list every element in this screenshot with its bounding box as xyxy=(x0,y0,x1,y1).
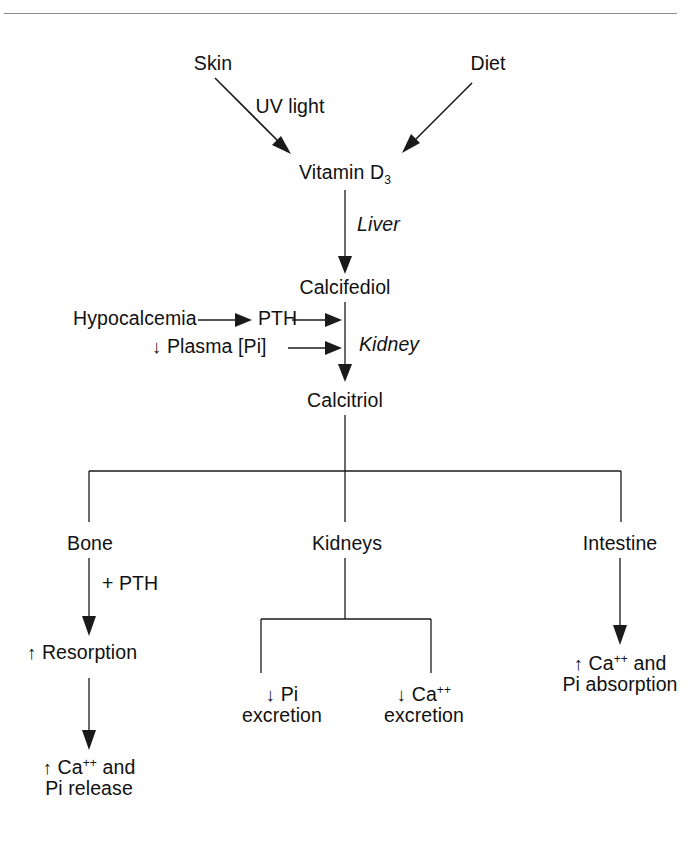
intestine-output-and: and xyxy=(628,652,666,674)
node-plasma-pi-text: Plasma [Pi] xyxy=(167,335,267,357)
down-arrow-icon: ↓ xyxy=(266,684,275,705)
arrow-bone-to-resorption xyxy=(82,558,96,636)
node-calcifediol: Calcifediol xyxy=(299,277,390,298)
node-kidneys: Kidneys xyxy=(312,533,382,554)
top-horizontal-rule xyxy=(4,13,677,14)
bone-output-charge: ++ xyxy=(83,756,97,770)
node-pth: PTH xyxy=(258,308,297,329)
node-bone-output: ↑ Ca++ and Pi release xyxy=(43,757,136,799)
ca-excretion-charge: ++ xyxy=(437,683,451,697)
node-vitamin-d3-subscript: 3 xyxy=(384,173,391,187)
arrow-resorption-to-release xyxy=(82,678,96,750)
node-vitamin-d3: Vitamin D3 xyxy=(299,162,391,183)
arrow-pth-to-kidney xyxy=(292,313,342,327)
node-hypocalcemia: Hypocalcemia xyxy=(73,308,197,329)
down-arrow-icon: ↓ xyxy=(152,336,161,357)
node-pi-excretion-line2: excretion xyxy=(242,705,322,726)
pi-excretion-text: Pi xyxy=(281,683,299,705)
node-ca-excretion-line2: excretion xyxy=(384,705,464,726)
bone-output-and: and xyxy=(97,756,135,778)
node-intestine-output-line1: ↑ Ca++ and xyxy=(562,653,677,674)
node-bone: Bone xyxy=(67,533,113,554)
down-arrow-icon: ↓ xyxy=(397,684,406,705)
up-arrow-icon: ↑ xyxy=(27,642,36,663)
node-skin: Skin xyxy=(194,53,232,74)
arrow-vitamind3-to-calcifediol xyxy=(338,190,352,274)
kidneys-distribution-bus xyxy=(261,558,431,673)
arrow-plasma-pi-to-kidney xyxy=(288,341,342,355)
node-ca-excretion: ↓ Ca++ excretion xyxy=(384,684,464,726)
node-resorption-text: Resorption xyxy=(42,641,137,663)
up-arrow-icon: ↑ xyxy=(574,653,583,674)
ca-excretion-ca: Ca xyxy=(412,683,437,705)
label-plus-pth: + PTH xyxy=(102,573,158,594)
intestine-output-charge: ++ xyxy=(614,652,628,666)
calcitriol-distribution-bus xyxy=(89,415,621,522)
arrow-diet-to-vitamind3 xyxy=(402,83,472,153)
label-liver: Liver xyxy=(357,214,400,235)
label-kidney: Kidney xyxy=(359,334,419,355)
node-intestine: Intestine xyxy=(583,533,658,554)
arrow-hypocalcemia-to-pth xyxy=(198,313,252,327)
node-pi-excretion: ↓ Pi excretion xyxy=(242,684,322,726)
node-resorption: ↑ Resorption xyxy=(27,642,137,663)
node-diet: Diet xyxy=(470,53,505,74)
arrow-calcifediol-to-calcitriol xyxy=(338,302,352,382)
node-vitamin-d3-text: Vitamin D xyxy=(299,161,384,183)
node-ca-excretion-line1: ↓ Ca++ xyxy=(384,684,464,705)
up-arrow-icon: ↑ xyxy=(43,757,52,778)
node-plasma-pi: ↓ Plasma [Pi] xyxy=(152,336,267,357)
label-uv-light: UV light xyxy=(255,96,324,117)
node-pi-excretion-line1: ↓ Pi xyxy=(242,684,322,705)
diagram-canvas: Skin Diet UV light Vitamin D3 Liver Calc… xyxy=(0,0,690,851)
intestine-output-ca: Ca xyxy=(589,652,614,674)
node-intestine-output: ↑ Ca++ and Pi absorption xyxy=(562,653,677,695)
connector-layer xyxy=(0,0,690,851)
bone-output-ca: Ca xyxy=(58,756,83,778)
node-calcitriol: Calcitriol xyxy=(307,390,383,411)
node-bone-output-line1: ↑ Ca++ and xyxy=(43,757,136,778)
node-bone-output-line2: Pi release xyxy=(43,778,136,799)
arrow-intestine-to-absorption xyxy=(613,558,627,645)
node-intestine-output-line2: Pi absorption xyxy=(562,674,677,695)
